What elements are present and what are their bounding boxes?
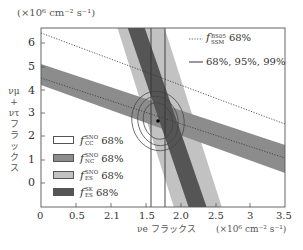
x-axis-label: νe フラックス: [137, 225, 196, 234]
y-label-part: ντ: [6, 108, 22, 119]
x-tick-label: 0.5: [69, 211, 85, 221]
best-fit-point: [156, 119, 160, 123]
legend-swatch-es-sk: [53, 188, 74, 196]
legend-f: f: [80, 169, 84, 182]
x-unit-label: (×10⁶ cm⁻² s⁻¹): [216, 225, 286, 234]
y-label-part: フ: [6, 119, 22, 130]
y-ticks: [41, 43, 45, 183]
legend-supsub: SNOCC: [85, 134, 98, 146]
legend-sub: NC: [85, 158, 98, 164]
y-label-part: νμ: [6, 86, 22, 97]
legend-f: f: [80, 152, 84, 165]
x-ticks: [76, 203, 250, 207]
y-label-part: ッ: [6, 141, 22, 152]
x-tick-label: 1.5: [139, 211, 155, 221]
x-tick-label: 3.5: [276, 211, 292, 221]
legend-sub: ES: [85, 175, 98, 181]
y-label-part: ク: [6, 152, 22, 163]
y-tick-label: 2: [28, 130, 35, 141]
legend-swatch-nc: [53, 154, 74, 162]
legend-pct: 68%: [101, 135, 123, 146]
legend-supsub: BS05SSM: [211, 33, 226, 45]
y-label-part: +: [6, 97, 22, 108]
y-tick-label: 4: [28, 85, 35, 96]
x-tick-label: 2.0: [173, 211, 189, 221]
legend-swatch-es-sno: [53, 171, 74, 179]
legend-pct: 68%: [229, 32, 251, 43]
legend-supsub: SNOES: [85, 169, 98, 181]
y-label-part: ス: [6, 163, 22, 174]
y-tick-label: 0: [28, 177, 35, 188]
legend-ssm: fBS05SSM68%: [206, 32, 251, 45]
legend-nc: fSNONC68%: [53, 153, 123, 163]
legend-pct: 68%: [101, 153, 123, 164]
legend-es-sk: fSKES68%: [53, 187, 118, 197]
legend-swatch-cc: [53, 136, 74, 144]
legend-es-sno: fSNOES68%: [53, 170, 123, 180]
legend-f: f: [80, 186, 84, 199]
y-unit-label: (×10⁶ cm⁻² s⁻¹): [17, 8, 95, 18]
legend-supsub: SKES: [85, 186, 93, 198]
y-tick-label: 1: [28, 154, 35, 165]
legend-supsub: SNONC: [85, 152, 98, 164]
y-tick-label: 3: [28, 107, 35, 118]
x-tick-label: 2.1: [104, 211, 120, 221]
y-tick-label: 5: [28, 61, 35, 72]
legend-contours: 68%, 95%, 99%: [206, 57, 285, 67]
y-tick-label: 6: [28, 37, 35, 48]
legend-sub: ES: [85, 192, 93, 198]
legend-f: f: [80, 134, 84, 147]
legend-pct: 68%: [101, 170, 123, 181]
legend-f: f: [206, 31, 210, 44]
x-tick-label: 0: [37, 211, 43, 221]
y-label-part: ラ: [6, 130, 22, 141]
x-tick-label: 2.5: [208, 211, 224, 221]
x-tick-label: 3: [247, 211, 253, 221]
legend-sub: SSM: [211, 39, 226, 45]
y-axis-label: νμ + ντ フ ラ ッ ク ス: [6, 86, 22, 174]
legend-sub: CC: [85, 140, 98, 146]
legend-cc: fSNOCC68%: [53, 135, 123, 145]
legend-pct: 68%: [96, 187, 118, 198]
